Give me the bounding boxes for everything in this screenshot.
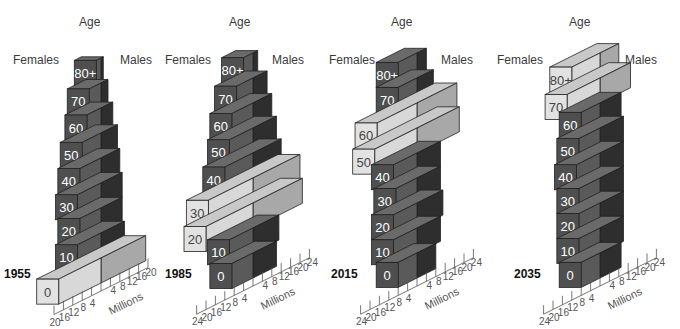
tick-label: 4 bbox=[263, 280, 269, 291]
tick-label: 12 bbox=[68, 307, 80, 318]
age-label: 0 bbox=[217, 269, 224, 284]
tick-label: 4 bbox=[589, 293, 595, 304]
females-label: Females bbox=[165, 53, 211, 67]
age-label: 0 bbox=[567, 268, 574, 283]
population-pyramids-chart: 80+7060504030201002016128448121620Millio… bbox=[0, 0, 680, 329]
tick-label: 12 bbox=[220, 302, 232, 313]
age-axis-title: Age bbox=[569, 15, 591, 29]
tick-label: 4 bbox=[610, 280, 616, 291]
age-label: 0 bbox=[44, 285, 51, 300]
tick-label: 8 bbox=[436, 276, 442, 287]
age-label: 0 bbox=[384, 268, 391, 283]
age-axis-title: Age bbox=[229, 15, 251, 29]
females-label: Females bbox=[13, 53, 59, 67]
tick-label: 24 bbox=[654, 257, 666, 268]
age-label: 50 bbox=[356, 155, 370, 170]
tick-label: 8 bbox=[232, 297, 238, 308]
tick-label: 24 bbox=[471, 257, 483, 268]
tick-label: 4 bbox=[242, 293, 248, 304]
females-label: Females bbox=[329, 53, 375, 67]
age-label: 80+ bbox=[74, 66, 96, 81]
males-label: Males bbox=[625, 53, 657, 67]
males-label: Males bbox=[272, 53, 304, 67]
pyramid-1955: 80+7060504030201002016128448121620Millio… bbox=[4, 15, 157, 328]
tick-label: 8 bbox=[579, 297, 585, 308]
year-label: 2035 bbox=[514, 267, 541, 281]
pyramid-1985: 80+70605040302010024201612844812162024Mi… bbox=[165, 15, 318, 327]
tick-label: 8 bbox=[619, 276, 625, 287]
tick-label: 12 bbox=[384, 302, 396, 313]
pyramid-2015: 80+70605040302010024201612844812162024Mi… bbox=[329, 15, 482, 327]
tick-label: 8 bbox=[120, 281, 126, 292]
tick-label: 4 bbox=[90, 298, 96, 309]
tick-label: 4 bbox=[406, 293, 412, 304]
year-label: 2015 bbox=[331, 267, 358, 281]
pyramid-2035: 80+70605040302010024201612844812162024Mi… bbox=[497, 15, 665, 327]
age-axis-title: Age bbox=[391, 15, 413, 29]
males-label: Males bbox=[120, 53, 152, 67]
tick-label: 8 bbox=[80, 302, 86, 313]
tick-label: 8 bbox=[272, 276, 278, 287]
year-label: 1955 bbox=[4, 267, 31, 281]
tick-label: 4 bbox=[427, 280, 433, 291]
females-label: Females bbox=[497, 53, 543, 67]
age-axis-title: Age bbox=[79, 15, 101, 29]
age-label: 20 bbox=[188, 232, 202, 247]
tick-label: 8 bbox=[396, 297, 402, 308]
year-label: 1985 bbox=[165, 267, 192, 281]
tick-label: 24 bbox=[307, 257, 319, 268]
males-label: Males bbox=[441, 53, 473, 67]
tick-label: 4 bbox=[111, 285, 117, 296]
tick-label: 12 bbox=[567, 302, 579, 313]
tick-label: 20 bbox=[145, 267, 157, 278]
